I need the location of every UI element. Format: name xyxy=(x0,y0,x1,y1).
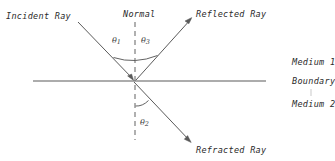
label-boundary: Boundary xyxy=(292,77,335,86)
label-medium-2: Medium 2 xyxy=(292,100,335,109)
label-reflected-ray: Reflected Ray xyxy=(196,10,266,19)
angle-arc-lower xyxy=(136,101,149,107)
theta-1-subscript: 1 xyxy=(117,38,121,46)
label-normal: Normal xyxy=(123,10,156,19)
incident-ray-line xyxy=(78,22,133,79)
reflected-ray-line xyxy=(136,19,191,80)
optics-diagram-canvas: Incident Ray Normal Reflected Ray Refrac… xyxy=(0,0,335,161)
theta-2-subscript: 2 xyxy=(145,120,149,128)
label-angle-theta-2: θ2 xyxy=(140,119,149,128)
reflected-ray-arrowhead xyxy=(185,18,192,24)
refracted-ray-line xyxy=(134,82,190,141)
label-angle-theta-3: θ3 xyxy=(141,37,150,46)
label-incident-ray: Incident Ray xyxy=(6,12,71,21)
diagram-vector-layer xyxy=(0,0,335,161)
label-medium-1: Medium 1 xyxy=(292,58,335,67)
label-refracted-ray: Refracted Ray xyxy=(196,146,266,155)
theta-3-subscript: 3 xyxy=(146,38,150,46)
label-angle-theta-1: θ1 xyxy=(112,37,121,46)
